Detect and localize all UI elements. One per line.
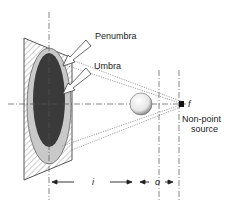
non-point-source (179, 101, 184, 107)
umbra-label: Umbra (94, 61, 121, 71)
source-label: Non-point source (182, 114, 221, 134)
projection-lines (62, 60, 183, 150)
focal-spot-label: f (188, 99, 191, 109)
source-label-line1: Non-point (182, 114, 221, 124)
image-distance-label: i (92, 177, 94, 187)
penumbra-label: Penumbra (95, 31, 137, 41)
object-sphere (130, 93, 152, 115)
source-label-line2: source (182, 124, 221, 134)
object-distance-label: o (155, 177, 160, 187)
